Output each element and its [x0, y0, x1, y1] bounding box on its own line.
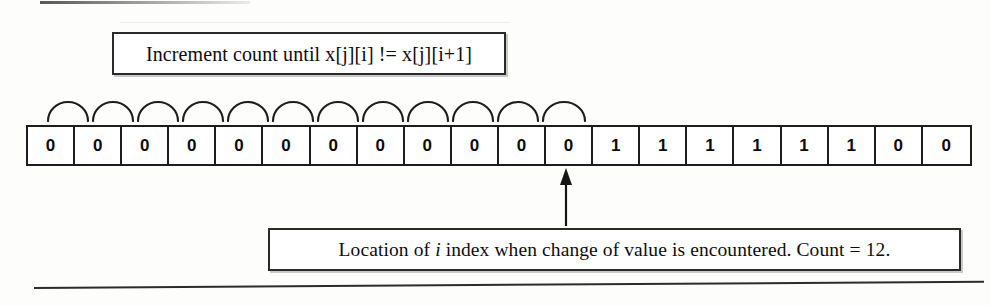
array-cell: 0: [358, 127, 405, 164]
traversal-arcs: [26, 88, 968, 122]
arc-hop-4: [183, 102, 223, 121]
callout-text-after: index when change of value is encountere…: [441, 239, 891, 260]
array-cell: 0: [169, 127, 216, 164]
array-cell: 0: [452, 127, 499, 164]
page-top-rule: [40, 1, 250, 4]
arc-hop-12: [543, 102, 585, 121]
callout-increment-count: Increment count until x[j][i] != x[j][i+…: [112, 32, 506, 75]
array-cell: 0: [75, 127, 122, 164]
array-cell: 0: [28, 127, 75, 164]
array-cell: 1: [687, 127, 734, 164]
array-cell: 1: [593, 127, 640, 164]
arc-hop-9: [408, 102, 448, 121]
array-cell: 0: [122, 127, 169, 164]
array-cell: 1: [640, 127, 687, 164]
array-cell: 0: [546, 127, 593, 164]
arc-hop-5: [228, 102, 268, 121]
page-bottom-rule: [34, 281, 984, 289]
array-cell: 0: [216, 127, 263, 164]
index-pointer-arrow: [556, 168, 576, 226]
array-cell: 1: [829, 127, 876, 164]
arc-hop-2: [93, 102, 133, 121]
callout-index-location: Location of i index when change of value…: [268, 228, 961, 271]
callout-text-before: Location of: [339, 239, 436, 260]
arc-hop-11: [498, 102, 538, 121]
arc-hop-3: [138, 102, 178, 121]
array-cell: 1: [734, 127, 781, 164]
page-top-rule-faint: [120, 22, 510, 23]
callout-increment-count-label: Increment count until x[j][i] != x[j][i+…: [146, 44, 472, 64]
arc-hop-1: [48, 102, 88, 121]
array-cell: 1: [782, 127, 829, 164]
array-cell: 0: [499, 127, 546, 164]
array-cell: 0: [405, 127, 452, 164]
figure-canvas: Increment count until x[j][i] != x[j][i+…: [0, 0, 990, 306]
array-cell: 0: [923, 127, 970, 164]
array-row: 00000000000011111100: [26, 125, 972, 166]
arc-hop-10: [453, 102, 493, 121]
array-cell: 0: [311, 127, 358, 164]
array-cell: 0: [263, 127, 310, 164]
array-cell: 0: [876, 127, 923, 164]
arc-hop-6: [273, 102, 313, 121]
callout-index-location-label: Location of i index when change of value…: [339, 240, 891, 260]
arc-hop-7: [318, 102, 358, 121]
arc-hop-8: [363, 102, 403, 121]
